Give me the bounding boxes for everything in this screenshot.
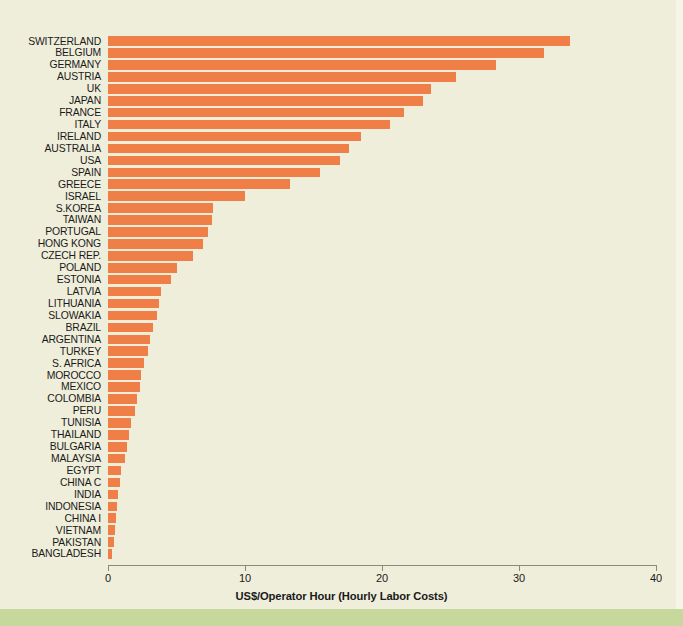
bar — [108, 406, 135, 416]
bar — [108, 120, 390, 130]
bar-row: EGYPT — [0, 465, 683, 477]
x-axis-tick — [519, 565, 520, 571]
bar-row: POLAND — [0, 262, 683, 274]
bar — [108, 72, 456, 82]
x-axis-tick — [382, 565, 383, 571]
bar-category-label: INDONESIA — [0, 501, 101, 513]
bar — [108, 549, 112, 559]
bar-row: CHINA C — [0, 477, 683, 489]
bar — [108, 48, 544, 58]
bar — [108, 203, 213, 213]
bar-row: USA — [0, 155, 683, 167]
bar-row: IRELAND — [0, 131, 683, 143]
bar-row: BULGARIA — [0, 441, 683, 453]
bar-category-label: CHINA I — [0, 513, 101, 525]
bar-row: SPAIN — [0, 167, 683, 179]
bar-row: LATVIA — [0, 286, 683, 298]
chart-page: SWITZERLANDBELGIUMGERMANYAUSTRIAUKJAPANF… — [0, 0, 683, 626]
x-axis-tick — [656, 565, 657, 571]
bar-category-label: COLOMBIA — [0, 393, 101, 405]
bar — [108, 346, 148, 356]
bar — [108, 323, 153, 333]
bar — [108, 275, 171, 285]
bar — [108, 418, 131, 428]
bar-row: ARGENTINA — [0, 334, 683, 346]
bar — [108, 311, 157, 321]
bar-category-label: AUSTRIA — [0, 71, 101, 83]
bar-row: HONG KONG — [0, 238, 683, 250]
bar — [108, 478, 120, 488]
bar — [108, 430, 129, 440]
bar-category-label: AUSTRALIA — [0, 143, 101, 155]
bar-row: MALAYSIA — [0, 453, 683, 465]
bar — [108, 299, 159, 309]
bar-category-label: PAKISTAN — [0, 537, 101, 549]
bar-category-label: GREECE — [0, 179, 101, 191]
bar-category-label: CHINA C — [0, 477, 101, 489]
bar — [108, 108, 404, 118]
bar — [108, 490, 118, 500]
bar — [108, 251, 193, 261]
bar-row: ISRAEL — [0, 191, 683, 203]
bar — [108, 191, 245, 201]
bar-row: PORTUGAL — [0, 226, 683, 238]
bar-row: BRAZIL — [0, 322, 683, 334]
bar-row: MOROCCO — [0, 370, 683, 382]
bar-category-label: HONG KONG — [0, 238, 101, 250]
bar-category-label: TAIWAN — [0, 214, 101, 226]
bar-category-label: S. AFRICA — [0, 358, 101, 370]
x-axis-title: US$/Operator Hour (Hourly Labor Costs) — [0, 590, 683, 602]
bar-category-label: USA — [0, 155, 101, 167]
bar-category-label: FRANCE — [0, 107, 101, 119]
bar-category-label: ITALY — [0, 119, 101, 131]
bar — [108, 227, 208, 237]
bar-row: TAIWAN — [0, 214, 683, 226]
bar-category-label: ARGENTINA — [0, 334, 101, 346]
bar — [108, 215, 212, 225]
x-axis-tick-label: 40 — [650, 572, 662, 584]
bar-category-label: BRAZIL — [0, 322, 101, 334]
bar — [108, 537, 114, 547]
bar-row: JAPAN — [0, 95, 683, 107]
bar-category-label: EGYPT — [0, 465, 101, 477]
bar-row: CHINA I — [0, 513, 683, 525]
bar — [108, 168, 320, 178]
bar-category-label: BULGARIA — [0, 441, 101, 453]
bar — [108, 239, 203, 249]
bar-row: FRANCE — [0, 107, 683, 119]
bar-row: BANGLADESH — [0, 548, 683, 560]
bar-category-label: LITHUANIA — [0, 298, 101, 310]
bar-row: COLOMBIA — [0, 393, 683, 405]
bar — [108, 502, 117, 512]
bar-chart-plot-area: SWITZERLANDBELGIUMGERMANYAUSTRIAUKJAPANF… — [0, 0, 683, 566]
bar-category-label: SLOWAKIA — [0, 310, 101, 322]
bar-category-label: UK — [0, 83, 101, 95]
x-axis-tick — [245, 565, 246, 571]
bar — [108, 370, 141, 380]
bar-row: THAILAND — [0, 429, 683, 441]
bar-category-label: TUNISIA — [0, 417, 101, 429]
bar — [108, 156, 340, 166]
bar-row: AUSTRALIA — [0, 143, 683, 155]
bar-category-label: THAILAND — [0, 429, 101, 441]
x-axis-tick-label: 10 — [239, 572, 251, 584]
bar-row: LITHUANIA — [0, 298, 683, 310]
bar-row: BELGIUM — [0, 47, 683, 59]
bar-row: TUNISIA — [0, 417, 683, 429]
bar-row: SLOWAKIA — [0, 310, 683, 322]
bar — [108, 394, 137, 404]
bar-category-label: LATVIA — [0, 286, 101, 298]
bar-row: ITALY — [0, 119, 683, 131]
x-axis-tick-label: 0 — [105, 572, 111, 584]
bar-category-label: INDIA — [0, 489, 101, 501]
bar — [108, 60, 496, 70]
bar-category-label: SPAIN — [0, 167, 101, 179]
bar-category-label: BANGLADESH — [0, 548, 101, 560]
x-axis-tick-label: 20 — [376, 572, 388, 584]
bar-row: S. AFRICA — [0, 358, 683, 370]
bar-row: GREECE — [0, 179, 683, 191]
bar-row: PAKISTAN — [0, 537, 683, 549]
bar-category-label: MALAYSIA — [0, 453, 101, 465]
bar-category-label: S.KOREA — [0, 203, 101, 215]
x-axis-tick — [108, 565, 109, 571]
